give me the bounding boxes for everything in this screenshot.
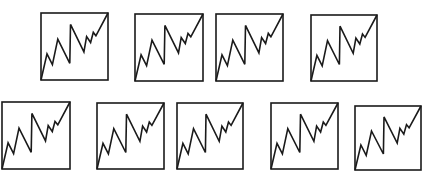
panel-frame	[97, 103, 164, 169]
panel-frame	[216, 14, 283, 81]
panel-frame	[355, 106, 421, 170]
panel-frame	[2, 102, 70, 169]
panel-frame	[311, 15, 377, 81]
bottom-row	[2, 102, 421, 170]
figure-canvas	[0, 0, 423, 179]
zigzag-panels-figure	[0, 0, 423, 179]
zigzag-panel-8	[271, 103, 338, 169]
panel-frame	[271, 103, 338, 169]
zigzag-panel-5	[2, 102, 70, 169]
top-row	[41, 13, 377, 81]
zigzag-panel-6	[97, 103, 164, 169]
zigzag-panel-3	[216, 14, 283, 81]
panel-frame	[41, 13, 108, 80]
zigzag-panel-2	[135, 14, 203, 81]
panel-frame	[177, 103, 243, 169]
panel-frame	[135, 14, 203, 81]
zigzag-panel-4	[311, 15, 377, 81]
zigzag-panel-1	[41, 13, 108, 80]
zigzag-panel-9	[355, 106, 421, 170]
zigzag-panel-7	[177, 103, 243, 169]
